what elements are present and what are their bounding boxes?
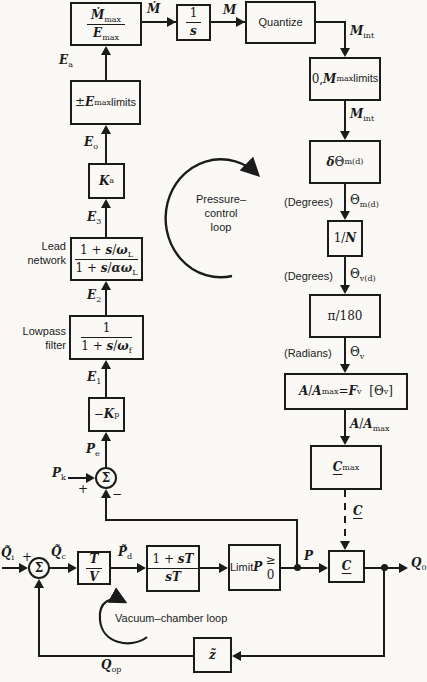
wire xyxy=(105,55,107,80)
wire xyxy=(105,369,107,397)
wire xyxy=(38,586,40,657)
signal-label-e3: E3 xyxy=(87,210,101,224)
fraction-denominator: s xyxy=(186,23,202,39)
fraction-numerator: 1 xyxy=(186,6,202,23)
wire xyxy=(344,21,346,48)
wire xyxy=(344,410,346,436)
junction-dot xyxy=(381,564,388,571)
signal-label-pk: Pk xyxy=(52,466,66,480)
block-pi-over-180: π/180 xyxy=(309,294,381,338)
block-one-plus-st: 1 + sTsT xyxy=(146,545,200,592)
block-t-over-v: TV xyxy=(77,551,111,585)
fraction-numerator: 1 xyxy=(81,321,132,338)
wire xyxy=(344,184,346,211)
block-quantize: Quantize xyxy=(245,1,316,44)
fraction-denominator: sT xyxy=(148,569,197,585)
junction-dot xyxy=(294,564,301,571)
wire xyxy=(241,655,385,657)
signal-label-qi: Q̃i xyxy=(1,546,14,560)
fraction-numerator: 1 + s/ωL xyxy=(75,243,137,260)
arrowhead xyxy=(19,563,28,573)
sign-minus: − xyxy=(112,487,122,501)
block-area-function: A/Amax = Fv [Θv] xyxy=(284,373,408,410)
signal-label-e1: E1 xyxy=(87,370,101,384)
arrowhead xyxy=(101,46,111,55)
arrowhead xyxy=(340,285,350,294)
signal-label-m: M xyxy=(223,3,236,17)
wire xyxy=(105,134,107,163)
sum-junction-pressure: Σ xyxy=(95,467,117,489)
wire xyxy=(50,567,68,569)
signal-label-theta-md: Θm(d) xyxy=(350,193,379,207)
block-cmax: Cmax xyxy=(310,445,382,490)
fraction-denominator: Emax xyxy=(87,25,125,41)
arrowhead xyxy=(167,17,176,27)
wire xyxy=(200,567,219,569)
wire xyxy=(39,655,193,657)
arrowhead xyxy=(101,199,111,208)
arrowhead xyxy=(101,489,111,498)
arrowhead xyxy=(236,17,245,27)
block-caption-lead-network: Leadnetwork xyxy=(12,240,66,268)
block-mmax-limits: 0, Mmaxlimits xyxy=(309,57,381,101)
arrowhead xyxy=(340,436,350,445)
block-integrator: 1s xyxy=(176,4,211,41)
signal-label-p: P xyxy=(304,549,313,563)
block-conductance: C xyxy=(328,550,365,583)
fraction-numerator: 1 + sT xyxy=(148,552,197,569)
arrowhead xyxy=(101,281,111,290)
fraction-denominator: V xyxy=(86,569,103,585)
dashed-wire xyxy=(344,490,346,541)
wire xyxy=(296,521,298,568)
signal-label-mdot: Ṁ xyxy=(147,2,160,16)
wire xyxy=(105,441,107,467)
units-label-degrees: (Degrees) xyxy=(284,196,333,208)
arrowhead xyxy=(340,48,350,57)
fraction-numerator: T xyxy=(86,552,103,569)
arrowhead xyxy=(34,579,44,588)
block-rate-gain: ṀmaxEmax xyxy=(70,2,142,46)
signal-label-q0: Q0 xyxy=(411,556,427,570)
block-lead-network: 1 + s/ωL1 + s/αωL xyxy=(70,237,143,281)
arrowhead xyxy=(101,360,111,369)
signal-label-qop: Qop xyxy=(101,658,121,672)
signal-label-pd: P̃d xyxy=(118,545,132,559)
block-one-over-n: 1/N xyxy=(327,220,363,257)
arrowhead xyxy=(232,651,241,661)
arrowhead xyxy=(340,131,350,140)
block-z-feedback: z̃ xyxy=(193,637,232,673)
arrowhead xyxy=(340,364,350,373)
signal-label-eo: Eo xyxy=(84,135,98,149)
arrowhead xyxy=(340,211,350,220)
wire xyxy=(344,101,346,131)
arrowhead xyxy=(219,563,228,573)
arrowhead xyxy=(137,563,146,573)
block-ka: Ka xyxy=(88,163,125,199)
block-lowpass-filter: 11 + s/ωf xyxy=(69,315,144,360)
units-label-degrees: (Degrees) xyxy=(284,270,333,282)
block-emax-limits: ±Emaxlimits xyxy=(70,80,141,125)
signal-label-theta-vd: Θv(d) xyxy=(350,267,376,281)
wire xyxy=(383,569,385,656)
sign-plus: + xyxy=(78,482,88,496)
signal-label-theta-v: Θv xyxy=(350,345,364,359)
fraction-denominator: 1 + s/ωf xyxy=(81,338,132,354)
units-label-radians: (Radians) xyxy=(284,347,332,359)
fraction-numerator: Ṁmax xyxy=(87,8,125,25)
signal-label-mint: Mint xyxy=(350,107,374,121)
vacuum-loop-label: Vacuum–chamber loop xyxy=(115,612,227,626)
arrowhead xyxy=(340,541,350,550)
wire xyxy=(344,257,346,285)
arrowhead xyxy=(319,563,328,573)
wire xyxy=(316,21,346,23)
block-limit: LimitP ≥ 0 xyxy=(228,544,281,591)
fraction-denominator: 1 + s/αωL xyxy=(75,260,137,276)
signal-label-qc: Q̃c xyxy=(51,545,66,559)
arrowhead xyxy=(101,125,111,134)
wire xyxy=(344,338,346,364)
arrowhead xyxy=(101,432,111,441)
signal-label-pe: Pe xyxy=(86,442,100,456)
arrowhead xyxy=(399,563,408,573)
signal-label-ea: Ea xyxy=(59,53,73,67)
signal-label-e2: E2 xyxy=(87,288,101,302)
